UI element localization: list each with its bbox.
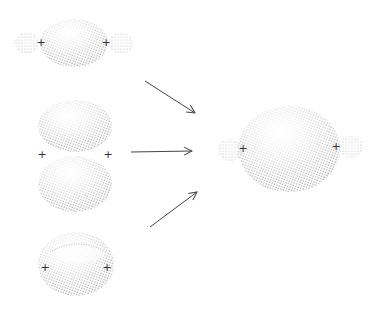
figure-pi-pair xyxy=(38,100,112,212)
end-lobe-right xyxy=(109,32,133,54)
orbital-diagram: + + + + + + + + xyxy=(0,0,382,318)
central-lobe xyxy=(40,19,108,67)
arrow-bottom xyxy=(150,192,197,227)
lower-lobe xyxy=(38,156,112,212)
sign-plus: + xyxy=(37,149,47,160)
arrows xyxy=(131,81,197,227)
donut-inner-ring xyxy=(50,242,106,262)
result-central-lobe xyxy=(238,106,340,192)
sign-plus: + xyxy=(102,262,112,273)
sign-plus: + xyxy=(331,141,341,152)
result-end-lobe-right xyxy=(339,136,363,158)
arrow-top xyxy=(145,81,195,113)
sign-plus: + xyxy=(103,149,113,160)
sign-plus: + xyxy=(36,37,46,48)
upper-lobe xyxy=(38,100,112,152)
arrow-middle xyxy=(131,151,192,152)
diagram-canvas xyxy=(0,0,382,318)
sign-plus: + xyxy=(238,143,248,154)
figure-sigma-overlap xyxy=(15,19,133,67)
sign-plus: + xyxy=(101,37,111,48)
sign-plus: + xyxy=(40,262,50,273)
